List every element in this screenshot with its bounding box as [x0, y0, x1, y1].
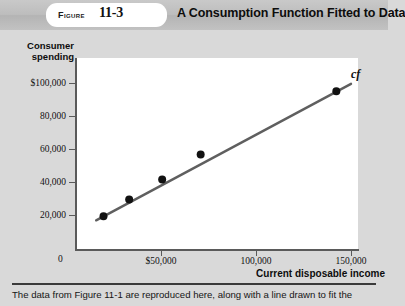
data-point — [197, 151, 205, 159]
caption-rule — [12, 283, 376, 285]
data-point — [100, 212, 108, 220]
cf-annotation-label: cf — [351, 67, 360, 82]
consumption-function-line — [96, 84, 351, 221]
data-point — [158, 176, 166, 184]
data-point — [125, 196, 133, 204]
data-point — [332, 87, 340, 95]
figure-caption: The data from Figure 11-1 are reproduced… — [12, 289, 380, 301]
